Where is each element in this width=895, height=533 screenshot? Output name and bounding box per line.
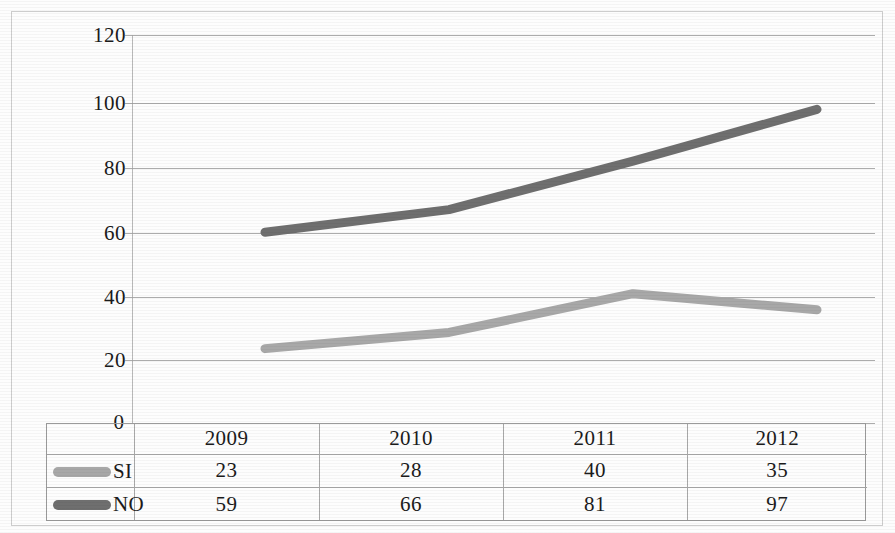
- chart-screenshot: 120 100 80 60 40 20 0: [0, 0, 895, 533]
- series-line-si: [265, 294, 817, 349]
- line-series-group: [132, 35, 875, 424]
- plot-area: [132, 35, 875, 423]
- legend-swatch-no-icon: [53, 500, 111, 510]
- cell-no-2010: 66: [319, 488, 503, 520]
- y-tick-label-80: 80: [40, 156, 126, 181]
- legend-item-no: NO: [47, 488, 134, 520]
- y-tick-label-20: 20: [40, 348, 126, 373]
- table-row: SI 23 28 40 35: [47, 454, 867, 487]
- cell-no-2012: 97: [687, 488, 867, 520]
- cell-si-2012: 35: [687, 454, 867, 487]
- table-corner-cell: [47, 424, 134, 454]
- cell-si-2009: 23: [134, 454, 319, 487]
- series-line-no: [265, 109, 817, 232]
- y-tick-label-60: 60: [40, 221, 126, 246]
- cell-no-2011: 81: [503, 488, 687, 520]
- cell-no-2009: 59: [134, 488, 319, 520]
- table-header-2011: 2011: [503, 424, 687, 454]
- legend-swatch-si-icon: [53, 467, 111, 477]
- cell-si-2011: 40: [503, 454, 687, 487]
- table-header-2009: 2009: [134, 424, 319, 454]
- legend-item-si: SI: [47, 454, 134, 487]
- legend-label-si: SI: [113, 459, 132, 484]
- data-table: 2009 2010 2011 2012 SI 23 28 40 35 NO: [46, 423, 866, 521]
- legend-label-no: NO: [113, 492, 144, 517]
- table-row: NO 59 66 81 97: [47, 488, 867, 520]
- table-header-2010: 2010: [319, 424, 503, 454]
- table-header-row: 2009 2010 2011 2012: [47, 424, 867, 454]
- table-header-2012: 2012: [687, 424, 867, 454]
- cell-si-2010: 28: [319, 454, 503, 487]
- y-tick-label-100: 100: [40, 91, 126, 116]
- y-tick-label-40: 40: [40, 285, 126, 310]
- y-tick-label-120: 120: [40, 23, 126, 48]
